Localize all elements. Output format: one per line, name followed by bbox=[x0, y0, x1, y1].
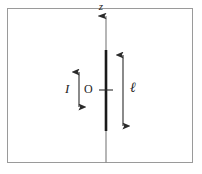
origin-label: O bbox=[84, 83, 93, 95]
physics-diagram-figure: z I O ℓ bbox=[0, 0, 202, 174]
z-axis-label: z bbox=[99, 1, 103, 12]
figure-border bbox=[8, 9, 193, 163]
diagram-canvas bbox=[0, 0, 202, 174]
current-label: I bbox=[65, 82, 69, 95]
length-label: ℓ bbox=[130, 81, 136, 95]
